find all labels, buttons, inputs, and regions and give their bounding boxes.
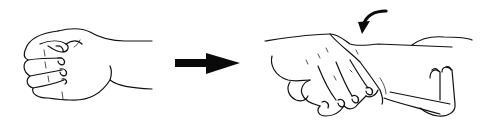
illustration [0, 0, 489, 131]
wrist-grip-icon [265, 11, 472, 116]
diagram-canvas [0, 0, 489, 131]
right-arrow-icon [175, 53, 240, 74]
rotation-arrow-icon [358, 11, 386, 34]
clenched-fist-icon [24, 29, 152, 100]
